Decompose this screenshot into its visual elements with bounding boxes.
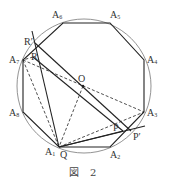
figure-caption: 図 2 — [0, 164, 169, 179]
point-label-p-prime: P′ — [133, 131, 141, 142]
vertex-label-a1: A1 — [45, 146, 55, 157]
vertex-label-a2: A2 — [110, 149, 120, 160]
octagon-diagram: A1A2A3A4A5A6A7A8OQR′RPP′ — [0, 0, 169, 188]
solid-line-rp-a1 — [32, 31, 59, 147]
center-point — [82, 85, 84, 87]
point-label-p: P — [113, 122, 119, 133]
point-label-r-prime: R′ — [24, 36, 33, 47]
vertex-label-a6: A6 — [52, 9, 62, 20]
center-label-o: O — [78, 73, 85, 84]
vertex-label-a8: A8 — [9, 107, 19, 118]
point-label-r: R — [31, 51, 38, 62]
vertex-label-a5: A5 — [110, 9, 120, 20]
dashed-line-a7-a1 — [23, 60, 59, 147]
vertex-label-a7: A7 — [9, 54, 19, 65]
solid-lines — [32, 31, 145, 147]
vertex-label-a4: A4 — [147, 54, 157, 65]
solid-line-a1-p — [59, 131, 123, 147]
vertex-label-a3: A3 — [147, 107, 157, 118]
point-label-q: Q — [60, 149, 68, 160]
